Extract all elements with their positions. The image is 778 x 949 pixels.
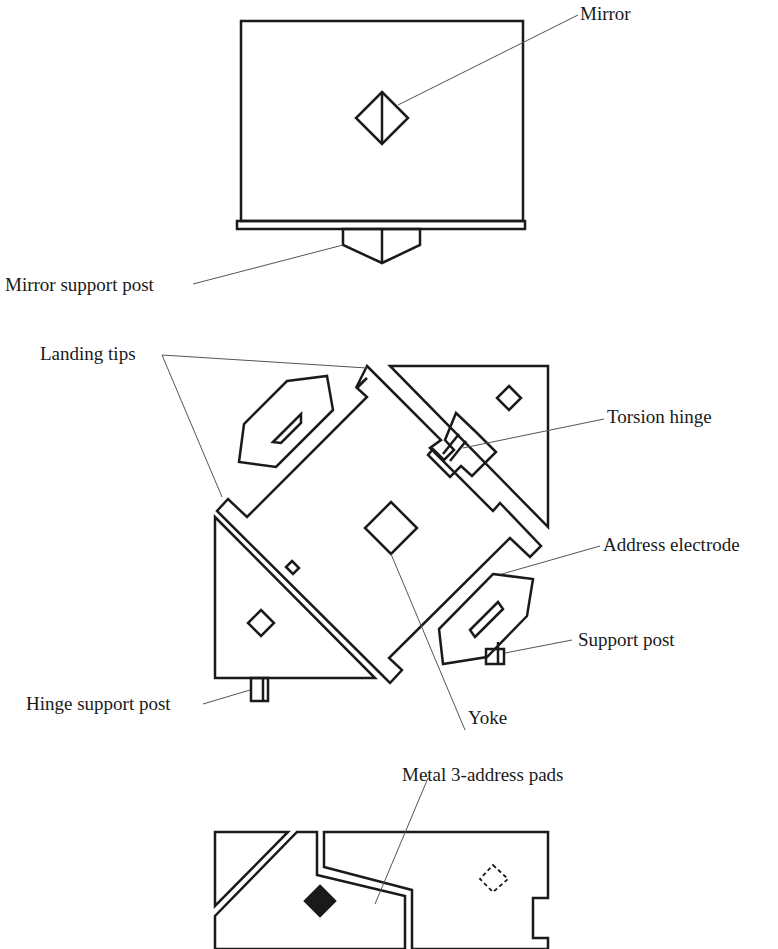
label-hinge-support-post: Hinge support post: [26, 694, 171, 713]
small-diamond-bl: [248, 610, 274, 636]
address-electrode-upper: [239, 376, 333, 467]
pad-corner: [215, 832, 288, 906]
label-metal-address-pads: Metal 3-address pads: [402, 765, 563, 784]
label-mirror-support-post: Mirror support post: [5, 275, 154, 294]
small-diamond-tr: [497, 386, 521, 410]
hinge-support-post: [251, 678, 268, 701]
hinge-triangle-bottom-left: [215, 517, 375, 678]
filled-diamond: [305, 886, 335, 916]
label-support-post: Support post: [578, 630, 675, 649]
label-yoke: Yoke: [468, 708, 507, 727]
label-address-electrode: Address electrode: [603, 535, 740, 554]
label-landing-tips: Landing tips: [40, 344, 136, 363]
yoke: [217, 366, 541, 683]
address-pad-center: [215, 832, 405, 949]
dmd-diagram: [0, 0, 778, 949]
yoke-center-diamond: [365, 502, 417, 554]
dashed-diamond: [480, 865, 508, 892]
label-torsion-hinge: Torsion hinge: [607, 407, 712, 426]
label-mirror: Mirror: [580, 4, 631, 23]
address-pad-right: [324, 832, 548, 949]
